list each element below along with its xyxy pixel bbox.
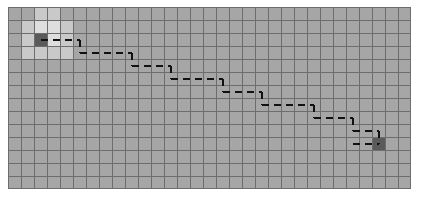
path-dash — [365, 130, 372, 132]
path-dash — [116, 52, 123, 54]
path-dash — [183, 78, 190, 80]
path-dash — [170, 66, 172, 73]
path-dash — [131, 53, 133, 60]
path-dash — [41, 39, 48, 41]
path-dash — [352, 118, 354, 125]
path-dash — [235, 91, 242, 93]
path-dash — [314, 117, 321, 119]
path-dash — [207, 78, 214, 80]
path-dash — [132, 65, 139, 67]
path-dash — [53, 39, 60, 41]
path-dash — [353, 143, 360, 145]
path-dash — [286, 104, 293, 106]
path-dash — [92, 52, 99, 54]
path-dash — [365, 143, 372, 145]
path-dash — [298, 104, 305, 106]
path-layer — [8, 7, 411, 189]
path-dash — [326, 117, 333, 119]
path-dash — [262, 104, 269, 106]
path-dash — [171, 78, 178, 80]
path-dash — [313, 105, 315, 112]
path-dash — [378, 131, 380, 138]
path-dash — [274, 104, 281, 106]
grid-path-visualization — [0, 0, 425, 202]
path-dash — [104, 52, 111, 54]
path-dash — [247, 91, 254, 93]
path-dash — [223, 91, 230, 93]
path-dash — [79, 40, 81, 47]
path-dash — [144, 65, 151, 67]
path-dash — [377, 143, 379, 145]
path-dash — [353, 130, 360, 132]
path-dash — [65, 39, 72, 41]
path-dash — [338, 117, 345, 119]
path-dash — [195, 78, 202, 80]
path-dash — [222, 79, 224, 86]
path-dash — [80, 52, 87, 54]
path-dash — [156, 65, 163, 67]
maze-grid[interactable] — [8, 7, 411, 189]
path-dash — [261, 92, 263, 99]
